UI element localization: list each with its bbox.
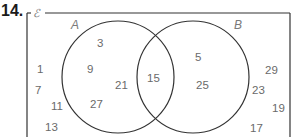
- set-a-label: A: [70, 18, 79, 32]
- element-outside: 17: [250, 122, 263, 134]
- element-b-only: 5: [195, 51, 201, 63]
- element-a-and-b: 15: [147, 72, 160, 84]
- element-outside: 29: [265, 64, 278, 76]
- element-outside: 23: [252, 84, 265, 96]
- element-a-only: 3: [97, 37, 103, 49]
- universal-set-symbol: ℰ: [33, 7, 41, 19]
- set-b-label: B: [234, 18, 242, 32]
- element-outside: 7: [35, 84, 41, 96]
- element-a-only: 27: [90, 98, 103, 110]
- element-b-only: 25: [196, 79, 209, 91]
- element-outside: 1: [37, 63, 43, 75]
- venn-diagram: ℰ A B 3921271552517111329231917: [0, 0, 296, 137]
- element-a-only: 9: [87, 63, 93, 75]
- element-outside: 11: [51, 100, 63, 112]
- element-a-only: 21: [115, 79, 128, 91]
- set-elements: 3921271552517111329231917: [35, 37, 285, 134]
- element-outside: 19: [272, 102, 285, 114]
- element-outside: 13: [45, 121, 58, 133]
